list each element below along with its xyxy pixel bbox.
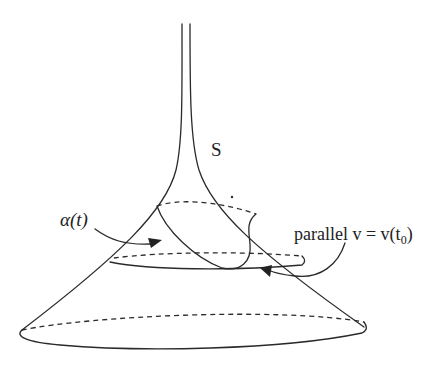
alpha-curve (157, 206, 256, 269)
parallel-arrowhead-icon (260, 265, 272, 277)
parallel-pointer-line (268, 243, 345, 276)
surface-left-profile (22, 24, 182, 330)
parallel-ring-front (110, 256, 305, 269)
alpha-pointer-line (95, 229, 150, 244)
parallel-label-main: parallel v = v(t (294, 224, 401, 245)
surface-right-profile (190, 24, 364, 327)
parallel-label-close: ) (407, 224, 413, 245)
alpha-label: α(t) (60, 209, 88, 231)
bottom-ellipse-front (20, 322, 366, 349)
alpha-symbol: α(t) (60, 209, 88, 231)
alpha-arrowhead-icon (148, 238, 162, 248)
diagram-figure: S α(t) parallel v = v(t0) (0, 0, 446, 367)
parallel-ring-back (114, 253, 302, 258)
parallel-label: parallel v = v(t0) (294, 224, 413, 247)
surface-point-marker (231, 196, 233, 198)
bottom-ellipse-back (22, 314, 364, 330)
surface-diagram: S α(t) parallel v = v(t0) (0, 0, 446, 367)
upper-ring-back (157, 202, 256, 214)
surface-label: S (211, 139, 222, 160)
